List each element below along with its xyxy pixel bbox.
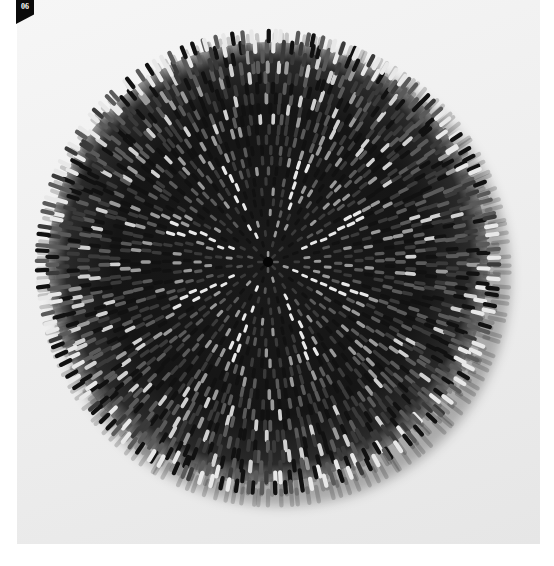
- sculpture-photo: [17, 0, 540, 544]
- page-number-text: 06: [16, 3, 34, 11]
- radial-sculpture-image: [17, 0, 540, 544]
